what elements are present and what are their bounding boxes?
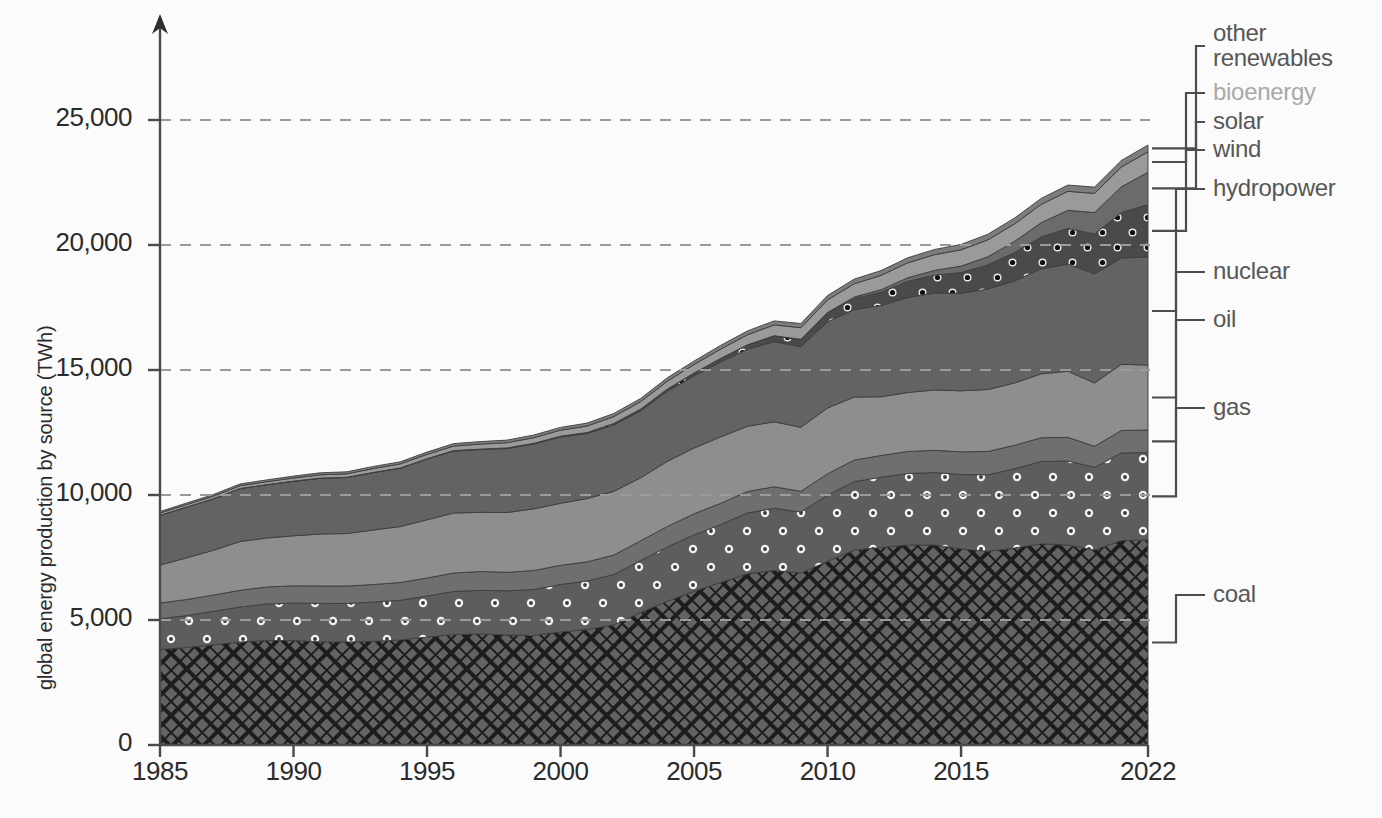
legend-connector-gas	[1152, 408, 1205, 496]
legend-connector-oil	[1152, 320, 1205, 441]
legend-connector-nuclear	[1152, 272, 1205, 398]
stacked-area-plot	[0, 0, 1382, 818]
legend-connector-hydropower	[1152, 189, 1205, 311]
legend-connector-coal	[1152, 595, 1205, 643]
chart-canvas: global energy production by source (TWh)…	[0, 0, 1382, 818]
legend-connector-solar	[1152, 122, 1205, 188]
